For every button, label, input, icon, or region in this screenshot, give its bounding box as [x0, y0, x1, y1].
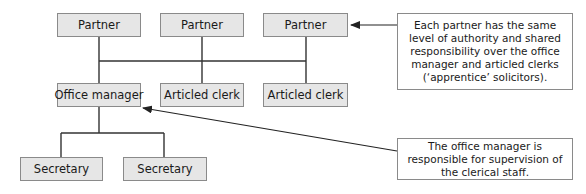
partner-box-1: Partner	[57, 13, 141, 37]
articled-clerk-label: Articled clerk	[164, 88, 240, 102]
secretary-label: Secretary	[34, 162, 89, 176]
articled-clerk-box-2: Articled clerk	[263, 83, 348, 107]
office-manager-box: Office manager	[57, 83, 141, 107]
articled-clerk-label: Articled clerk	[268, 88, 344, 102]
office-manager-callout: The office manager is responsible for su…	[397, 138, 573, 180]
secretary-box-1: Secretary	[20, 157, 103, 181]
secretary-box-2: Secretary	[123, 157, 207, 181]
partner-label: Partner	[285, 18, 327, 32]
partners-callout: Each partner has the same level of autho…	[397, 13, 573, 90]
partners-callout-text: Each partner has the same level of autho…	[404, 19, 566, 84]
partner-box-2: Partner	[160, 13, 244, 37]
partner-box-3: Partner	[263, 13, 348, 37]
articled-clerk-box-1: Articled clerk	[160, 83, 244, 107]
secretary-label: Secretary	[137, 162, 192, 176]
partner-label: Partner	[181, 18, 223, 32]
office-manager-callout-text: The office manager is responsible for su…	[404, 140, 566, 179]
partner-label: Partner	[78, 18, 120, 32]
office-manager-label: Office manager	[55, 88, 144, 102]
